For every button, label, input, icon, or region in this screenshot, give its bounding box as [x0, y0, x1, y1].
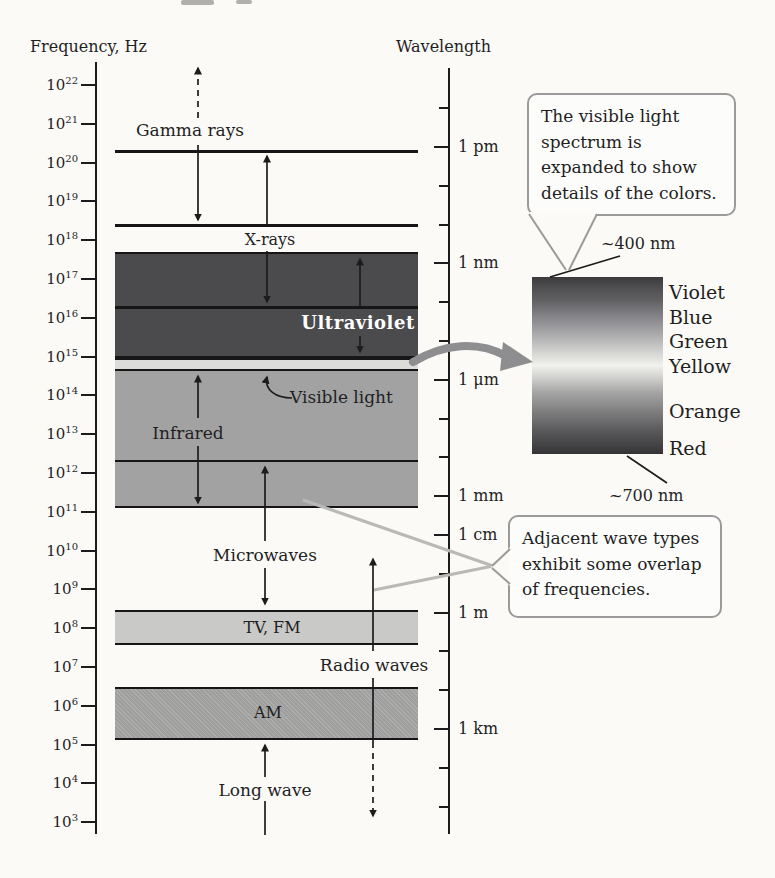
visible-callout-tail [529, 212, 597, 271]
callout-tail-layer [0, 0, 775, 878]
em-spectrum-figure: Frequency, Hz Wavelength 102210211020101… [0, 0, 775, 878]
